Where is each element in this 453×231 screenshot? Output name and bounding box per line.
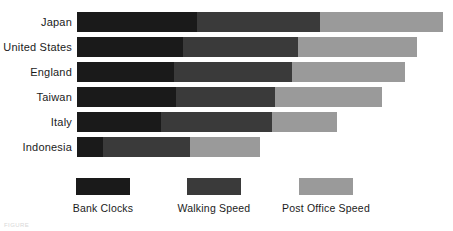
chart-plot-area: Japan United States England bbox=[0, 0, 453, 168]
bar-segment-bank-clocks bbox=[77, 12, 197, 32]
stacked-bar-united-states bbox=[77, 37, 417, 57]
bar-segment-post-office-speed bbox=[275, 87, 382, 107]
category-label-japan: Japan bbox=[41, 16, 72, 28]
bar-segment-post-office-speed bbox=[190, 137, 260, 157]
stacked-bar-japan bbox=[77, 12, 443, 32]
legend-label-bank-clocks: Bank Clocks bbox=[48, 202, 158, 214]
category-label-indonesia: Indonesia bbox=[22, 141, 72, 153]
bar-segment-bank-clocks bbox=[77, 137, 103, 157]
bar-segment-bank-clocks bbox=[77, 87, 176, 107]
stacked-bar-england bbox=[77, 62, 405, 82]
table-row: Japan bbox=[0, 12, 453, 32]
bar-segment-bank-clocks bbox=[77, 112, 161, 132]
category-label-italy: Italy bbox=[51, 116, 72, 128]
stacked-bar-chart-figure: Japan United States England bbox=[0, 0, 453, 231]
legend-item-post-office-speed: Post Office Speed bbox=[271, 178, 381, 214]
chart-legend: Bank Clocks Walking Speed Post Office Sp… bbox=[0, 178, 453, 218]
bar-segment-post-office-speed bbox=[292, 62, 405, 82]
bar-segment-bank-clocks bbox=[77, 37, 183, 57]
bar-segment-walking-speed bbox=[197, 12, 320, 32]
bar-segment-post-office-speed bbox=[320, 12, 443, 32]
category-label-england: England bbox=[30, 66, 72, 78]
stacked-bar-italy bbox=[77, 112, 337, 132]
figure-caption: FIGURE bbox=[4, 222, 29, 228]
bar-segment-bank-clocks bbox=[77, 62, 174, 82]
table-row: Indonesia bbox=[0, 137, 453, 157]
bar-segment-post-office-speed bbox=[298, 37, 417, 57]
legend-swatch-bank-clocks bbox=[76, 178, 130, 195]
bar-segment-post-office-speed bbox=[272, 112, 337, 132]
bar-segment-walking-speed bbox=[174, 62, 292, 82]
stacked-bar-taiwan bbox=[77, 87, 382, 107]
legend-swatch-post-office-speed bbox=[299, 178, 353, 195]
category-label-taiwan: Taiwan bbox=[37, 91, 72, 103]
stacked-bar-indonesia bbox=[77, 137, 260, 157]
table-row: United States bbox=[0, 37, 453, 57]
category-label-united-states: United States bbox=[3, 41, 72, 53]
legend-item-bank-clocks: Bank Clocks bbox=[48, 178, 158, 214]
bar-segment-walking-speed bbox=[176, 87, 275, 107]
legend-label-walking-speed: Walking Speed bbox=[159, 202, 269, 214]
bar-segment-walking-speed bbox=[103, 137, 190, 157]
legend-item-walking-speed: Walking Speed bbox=[159, 178, 269, 214]
table-row: Taiwan bbox=[0, 87, 453, 107]
bar-segment-walking-speed bbox=[183, 37, 298, 57]
legend-swatch-walking-speed bbox=[187, 178, 241, 195]
table-row: England bbox=[0, 62, 453, 82]
legend-label-post-office-speed: Post Office Speed bbox=[271, 202, 381, 214]
bar-segment-walking-speed bbox=[161, 112, 272, 132]
table-row: Italy bbox=[0, 112, 453, 132]
